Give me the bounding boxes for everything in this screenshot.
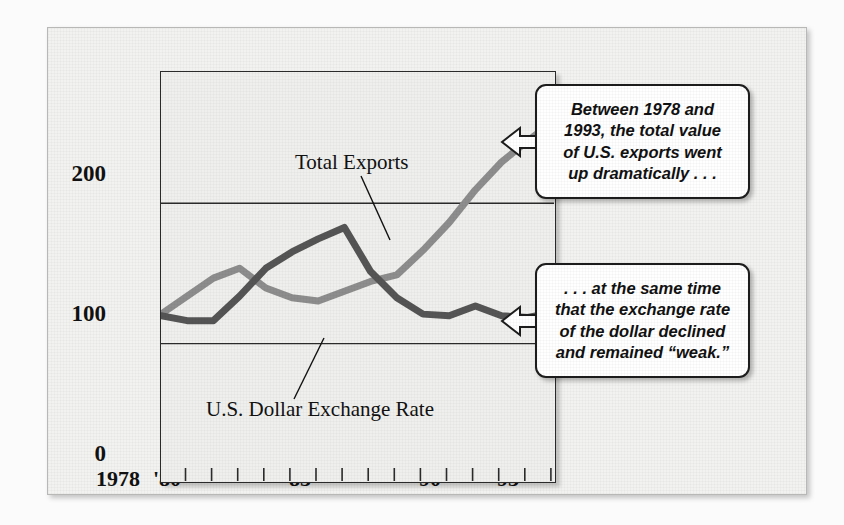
x-axis-ticks (186, 468, 551, 481)
y-tick-label-0: 0 (46, 441, 106, 467)
chart-figure: 200 100 0 1978 '80 '85 '90 '93 (0, 0, 844, 525)
plot-area: Total Exports U.S. Dollar Exchange Rate (160, 71, 556, 483)
exports-callout-text: Between 1978 and 1993, the total value o… (551, 99, 734, 185)
dollar-callout-text: . . . at the same time that the exchange… (543, 278, 742, 364)
exports-leader-line (361, 176, 390, 240)
y-tick-label-100: 100 (46, 301, 106, 327)
dollar-leader-line (294, 338, 324, 399)
series-label-total-exports: Total Exports (295, 150, 408, 175)
figure-panel: 200 100 0 1978 '80 '85 '90 '93 (47, 27, 807, 495)
exports-callout: Between 1978 and 1993, the total value o… (535, 84, 750, 199)
series-label-dollar-exchange-rate: U.S. Dollar Exchange Rate (206, 397, 434, 422)
y-tick-label-200: 200 (46, 161, 106, 187)
dollar-callout: . . . at the same time that the exchange… (535, 263, 750, 378)
